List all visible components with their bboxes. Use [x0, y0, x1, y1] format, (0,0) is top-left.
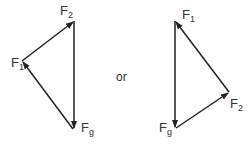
label-sub: g: [89, 127, 94, 137]
right-force-triangle: [175, 21, 229, 128]
label-sub: 2: [238, 103, 243, 113]
label-f1-right: F1: [182, 7, 195, 24]
or-text: or: [116, 70, 127, 84]
label-fg-right: Fg: [159, 120, 172, 137]
label-base: F: [230, 96, 238, 111]
label-base: F: [159, 120, 167, 135]
vector-f2-right: [176, 93, 228, 128]
label-sub: 1: [19, 62, 24, 72]
vector-f1-right: [176, 22, 229, 92]
label-sub: 2: [68, 10, 73, 20]
left-force-triangle: [22, 21, 74, 129]
label-base: F: [182, 7, 190, 22]
label-base: F: [60, 3, 68, 18]
vector-f2-left: [22, 22, 73, 61]
label-f2-right: F2: [230, 96, 243, 113]
label-sub: g: [167, 127, 172, 137]
label-fg-left: Fg: [81, 120, 94, 137]
vector-f1-left: [23, 62, 73, 129]
label-base: F: [81, 120, 89, 135]
label-base: F: [11, 55, 19, 70]
label-sub: 1: [190, 14, 195, 24]
label-f2-left: F2: [60, 3, 73, 20]
label-f1-left: F1: [11, 55, 24, 72]
